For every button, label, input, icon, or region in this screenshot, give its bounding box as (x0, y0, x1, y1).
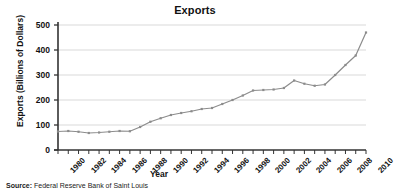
source-note: Source: Federal Reserve Bank of Saint Lo… (6, 182, 148, 189)
y-tick-label: 500 (20, 20, 50, 30)
y-tick-label: 400 (20, 45, 50, 55)
source-text: Federal Reserve Bank of Saint Louis (32, 182, 148, 189)
y-tick-label: 100 (20, 120, 50, 130)
x-tick-label: 2010 (376, 156, 395, 175)
y-tick-label: 0 (20, 145, 50, 155)
source-label: Source: (6, 182, 32, 189)
y-tick-label: 200 (20, 95, 50, 105)
y-tick-label: 300 (20, 70, 50, 80)
